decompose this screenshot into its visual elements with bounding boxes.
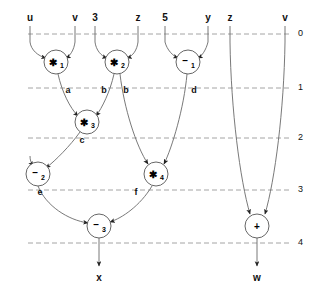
edge-label-e: e — [34, 187, 46, 197]
edge-5-to-s1 — [165, 42, 178, 58]
level-number-0: 0 — [298, 28, 303, 38]
svg-text:3: 3 — [102, 226, 106, 233]
input-label-z2: z — [223, 12, 237, 23]
svg-text:2: 2 — [121, 62, 125, 69]
edge-label-b2: b — [120, 85, 132, 95]
input-label-5: 5 — [158, 12, 172, 23]
svg-text:✱: ✱ — [49, 57, 58, 68]
dataflow-graph-figure: ✱ 1 ✱ 2 – 1 ✱ 3 – 2 — [0, 0, 315, 306]
edge-label-c: c — [76, 135, 88, 145]
edge-z2-to-plus — [230, 42, 250, 214]
output-label-x: x — [92, 272, 106, 283]
svg-text:1: 1 — [191, 62, 195, 69]
edge-label-b1: b — [98, 85, 110, 95]
svg-text:–: – — [182, 55, 188, 66]
edge-label-d: d — [188, 85, 200, 95]
input-label-v1: v — [68, 12, 82, 23]
edge-label-a: a — [62, 85, 74, 95]
level-number-4: 4 — [298, 237, 303, 247]
input-label-3: 3 — [88, 12, 102, 23]
svg-text:1: 1 — [60, 62, 64, 69]
node-m1[interactable]: ✱ 1 — [44, 50, 68, 74]
input-label-v2: v — [278, 12, 292, 23]
svg-text:✱: ✱ — [110, 57, 119, 68]
node-s2[interactable]: – 2 — [26, 162, 50, 186]
edge-c-m3-to-s2 — [46, 132, 80, 168]
svg-text:–: – — [93, 219, 99, 230]
level-number-1: 1 — [298, 82, 303, 92]
level-number-2: 2 — [298, 132, 303, 142]
edge-v-to-m1 — [66, 42, 75, 58]
input-label-u: u — [23, 12, 37, 23]
svg-text:✱: ✱ — [149, 169, 158, 180]
graph-canvas: ✱ 1 ✱ 2 – 1 ✱ 3 – 2 — [0, 0, 315, 306]
edge-b-m2-to-m3 — [96, 74, 114, 116]
node-m4[interactable]: ✱ 4 — [144, 162, 168, 186]
svg-text:4: 4 — [160, 174, 164, 181]
edge-3-to-m2 — [95, 42, 107, 58]
node-m3[interactable]: ✱ 3 — [75, 110, 99, 134]
edge-y-to-s1 — [198, 42, 208, 58]
svg-text:+: + — [254, 221, 260, 232]
edge-a-m1-to-m3 — [58, 74, 78, 116]
node-m2[interactable]: ✱ 2 — [105, 50, 129, 74]
input-label-y: y — [201, 12, 215, 23]
level-number-3: 3 — [298, 184, 303, 194]
output-label-w: w — [250, 272, 264, 283]
node-p1[interactable]: + — [245, 214, 269, 238]
edge-u-to-m1 — [30, 42, 46, 58]
edge-d-s1-to-m4 — [164, 74, 187, 164]
svg-text:✱: ✱ — [80, 117, 89, 128]
svg-text:3: 3 — [91, 122, 95, 129]
edge-label-f: f — [130, 187, 142, 197]
edge-z-to-m2 — [127, 42, 138, 58]
node-s3[interactable]: – 3 — [87, 214, 111, 238]
edge-v2-to-plus — [265, 42, 285, 214]
input-label-z1: z — [131, 12, 145, 23]
node-s1[interactable]: – 1 — [176, 50, 200, 74]
svg-text:2: 2 — [41, 174, 45, 181]
svg-text:–: – — [32, 167, 38, 178]
operation-nodes: ✱ 1 ✱ 2 – 1 ✱ 3 – 2 — [26, 50, 269, 238]
